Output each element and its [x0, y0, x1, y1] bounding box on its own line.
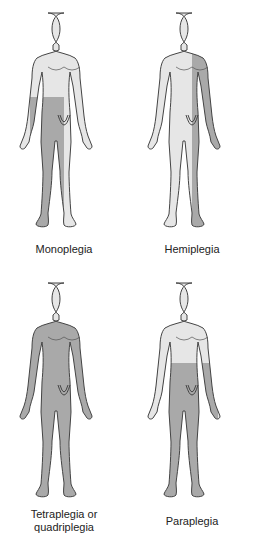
- figure-label: Paraplegia: [128, 515, 255, 528]
- body-figure-icon: [0, 275, 128, 510]
- affected-region-left-side: [192, 45, 252, 240]
- body-figure-icon: [0, 5, 128, 240]
- figure-label: Hemiplegia: [128, 243, 255, 256]
- figure-paraplegia: Paraplegia: [128, 275, 255, 510]
- label-line-1: Tetraplegia or: [0, 508, 128, 521]
- figure-tetraplegia: Tetraplegia or quadriplegia: [0, 275, 128, 510]
- body-figure-icon: [128, 275, 255, 510]
- figure-monoplegia: Monoplegia: [0, 5, 128, 240]
- figure-label: Tetraplegia or quadriplegia: [0, 508, 128, 534]
- figure-label: Monoplegia: [0, 243, 128, 256]
- label-line-2: quadriplegia: [0, 521, 128, 534]
- figure-hemiplegia: Hemiplegia: [128, 5, 255, 240]
- body-figure-icon: [128, 5, 255, 240]
